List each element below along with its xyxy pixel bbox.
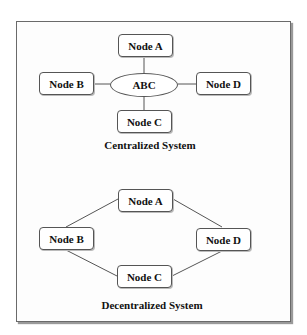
node-label: Node A — [128, 40, 163, 52]
node-label: Node D — [206, 78, 241, 90]
centralized-caption: Centralized System — [104, 139, 195, 151]
node-label: Node A — [128, 195, 163, 207]
edge-c-d — [172, 251, 222, 276]
central-hub-abc: ABC — [110, 73, 178, 97]
decentral-node-b: Node B — [39, 227, 94, 250]
central-node-b: Node B — [39, 72, 94, 95]
decentral-node-d: Node D — [196, 228, 251, 251]
node-label: Node B — [49, 233, 84, 245]
decentralized-caption: Decentralized System — [101, 299, 202, 311]
central-node-a: Node A — [118, 34, 173, 57]
central-node-c: Node C — [117, 110, 172, 133]
node-label: Node B — [49, 78, 84, 90]
edge-b-c — [66, 250, 117, 276]
decentral-node-c: Node C — [117, 265, 172, 288]
decentral-node-a: Node A — [118, 189, 173, 212]
edge-a-d — [173, 199, 222, 227]
central-node-d: Node D — [196, 72, 251, 95]
node-label: Node D — [206, 234, 241, 246]
node-label: Node C — [127, 116, 162, 128]
node-label: Node C — [127, 271, 162, 283]
hub-label: ABC — [132, 79, 155, 91]
edge-a-b — [66, 199, 118, 227]
